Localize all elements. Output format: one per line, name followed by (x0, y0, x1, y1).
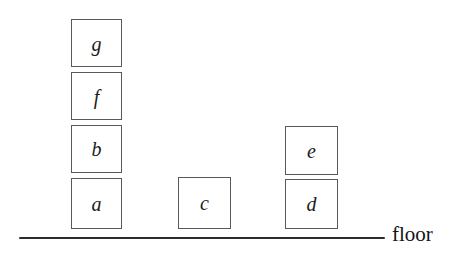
block-e[interactable]: e (285, 126, 338, 175)
block-a[interactable]: a (71, 178, 122, 229)
blocks-world-diagram: gfbaced floor (0, 0, 456, 253)
block-label-b: b (92, 139, 102, 159)
block-label-f: f (94, 87, 100, 107)
block-d[interactable]: d (285, 179, 338, 229)
floor-label: floor (392, 224, 433, 245)
block-g[interactable]: g (71, 19, 122, 67)
floor-line (19, 237, 385, 239)
block-c[interactable]: c (178, 177, 231, 229)
block-label-g: g (92, 34, 102, 54)
block-label-d: d (307, 194, 317, 214)
block-f[interactable]: f (71, 72, 122, 120)
block-label-e: e (307, 141, 316, 161)
block-b[interactable]: b (71, 125, 122, 173)
block-label-c: c (200, 193, 209, 213)
block-label-a: a (92, 194, 102, 214)
